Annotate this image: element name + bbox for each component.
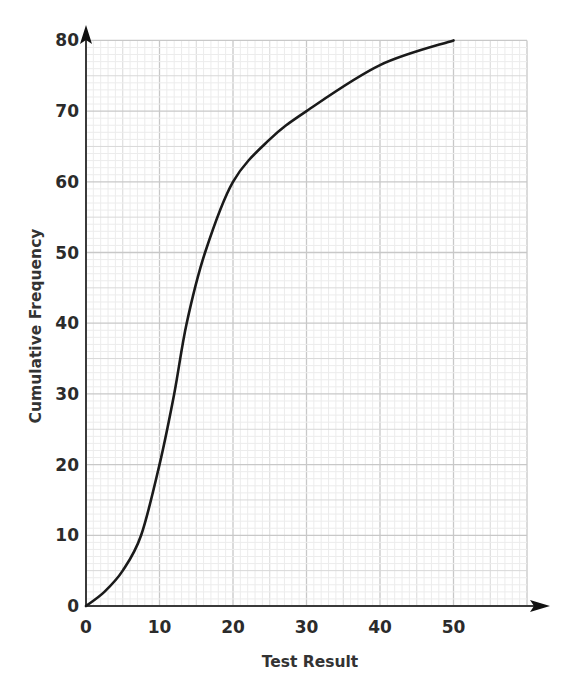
y-tick-label: 70 — [55, 101, 79, 121]
y-tick-label: 50 — [55, 243, 79, 263]
axes — [80, 25, 550, 612]
y-tick-label: 40 — [55, 313, 79, 333]
x-tick-label: 0 — [80, 617, 92, 637]
y-axis-label: Cumulative Frequency — [27, 229, 45, 424]
y-tick-label: 80 — [55, 30, 79, 50]
x-tick-labels: 01020304050 — [80, 617, 465, 637]
x-axis-label: Test Result — [262, 653, 359, 671]
y-tick-label: 10 — [55, 525, 79, 545]
x-tick-label: 20 — [221, 617, 245, 637]
cumulative-frequency-chart: 01020304050 01020304050607080 Test Resul… — [0, 0, 569, 683]
x-tick-label: 50 — [442, 617, 466, 637]
y-tick-labels: 01020304050607080 — [55, 30, 79, 616]
y-tick-label: 0 — [67, 596, 79, 616]
grid — [86, 40, 527, 606]
x-tick-label: 10 — [148, 617, 172, 637]
y-tick-label: 20 — [55, 455, 79, 475]
x-tick-label: 40 — [368, 617, 392, 637]
y-tick-label: 60 — [55, 172, 79, 192]
x-tick-label: 30 — [295, 617, 319, 637]
y-tick-label: 30 — [55, 384, 79, 404]
